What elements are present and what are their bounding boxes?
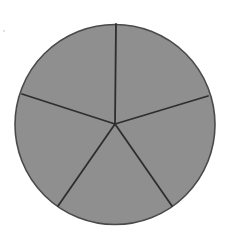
fraction-circle-diagram: [0, 0, 230, 231]
division-line-1: [115, 24, 116, 124]
noise-speck: [3, 30, 5, 32]
